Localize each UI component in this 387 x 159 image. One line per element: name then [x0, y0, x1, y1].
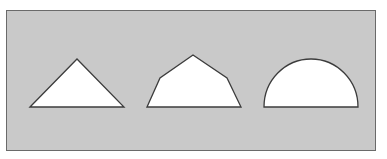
shapes-canvas: [0, 0, 387, 159]
semicircle-shape: [264, 59, 358, 107]
pentagon-shape: [147, 55, 241, 107]
triangle-shape: [30, 59, 124, 107]
